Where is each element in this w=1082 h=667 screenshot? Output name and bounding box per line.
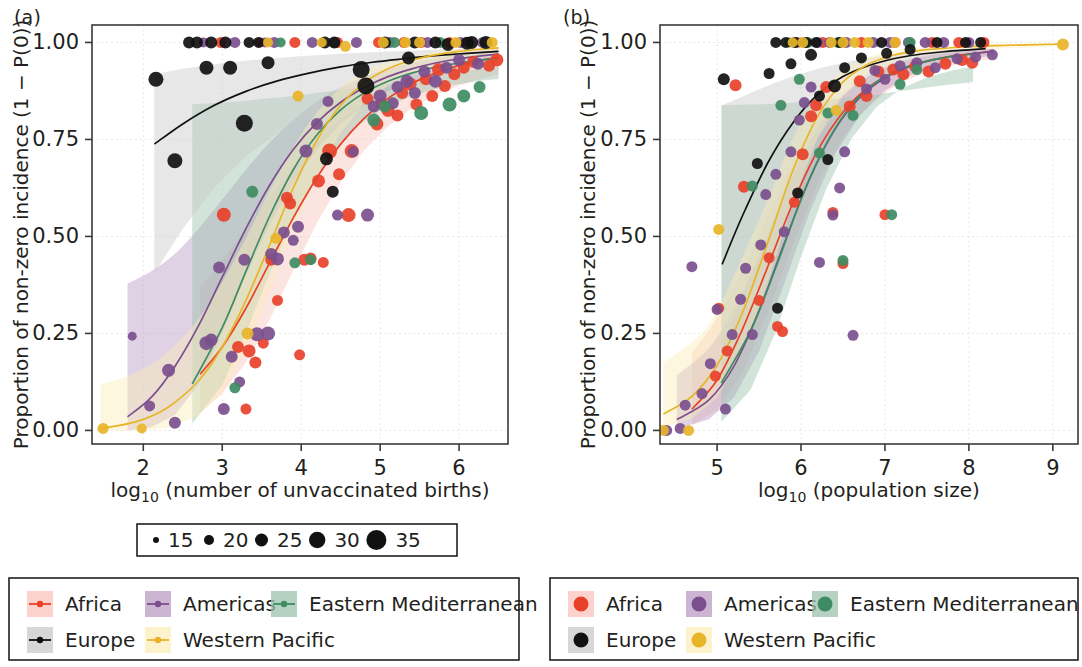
x-tick-label: 7 bbox=[878, 456, 891, 480]
data-point bbox=[931, 37, 942, 48]
data-point bbox=[848, 330, 859, 341]
data-point bbox=[400, 37, 411, 48]
x-tick-label: 4 bbox=[294, 456, 307, 480]
x-axis-title-subscript: 10 bbox=[789, 489, 807, 505]
panel-b-tag: (b) bbox=[563, 6, 591, 28]
data-point bbox=[307, 37, 318, 48]
data-point bbox=[262, 56, 275, 69]
legend-label: Western Pacific bbox=[183, 628, 335, 652]
data-point bbox=[167, 153, 182, 168]
y-tick-label: 0.50 bbox=[600, 224, 647, 248]
size-legend-label: 30 bbox=[334, 528, 359, 552]
data-point bbox=[740, 263, 751, 274]
x-tick-label: 5 bbox=[710, 456, 723, 480]
data-point bbox=[827, 210, 838, 221]
data-point bbox=[288, 235, 299, 246]
data-point bbox=[223, 61, 237, 75]
data-point bbox=[351, 37, 362, 48]
data-point bbox=[754, 295, 765, 306]
legend-label: Eastern Mediterranean bbox=[850, 592, 1079, 616]
data-point bbox=[378, 37, 389, 48]
data-point bbox=[826, 37, 837, 48]
panel-a-svg: 234560.000.250.500.751.00Proportion of n… bbox=[0, 0, 541, 667]
y-tick-label: 0.50 bbox=[32, 224, 79, 248]
data-point bbox=[443, 98, 457, 112]
data-point bbox=[367, 114, 380, 127]
data-point bbox=[289, 37, 300, 48]
x-tick-label: 2 bbox=[137, 456, 150, 480]
data-point bbox=[970, 52, 981, 63]
data-point bbox=[735, 294, 746, 305]
legend-dot bbox=[155, 637, 161, 643]
x-axis-title-subscript: 10 bbox=[141, 489, 159, 505]
data-point bbox=[240, 404, 251, 415]
data-point bbox=[270, 233, 281, 244]
data-point bbox=[242, 327, 254, 339]
data-point bbox=[848, 110, 859, 121]
data-point bbox=[814, 257, 825, 268]
data-point bbox=[289, 257, 300, 268]
legend-label: Europe bbox=[606, 628, 676, 652]
data-point bbox=[323, 96, 334, 107]
size-legend-dot bbox=[255, 534, 268, 547]
data-point bbox=[960, 37, 971, 48]
data-point bbox=[805, 49, 817, 61]
data-point bbox=[357, 77, 374, 94]
data-point bbox=[199, 61, 213, 75]
data-point bbox=[426, 90, 438, 102]
legend-dot bbox=[692, 597, 707, 612]
legend-dot bbox=[574, 633, 589, 648]
data-point bbox=[342, 208, 356, 222]
data-point bbox=[760, 189, 771, 200]
x-axis-title-rest: (number of unvaccinated births) bbox=[159, 478, 490, 502]
data-point bbox=[722, 345, 733, 356]
x-tick-label: 5 bbox=[373, 456, 386, 480]
data-point bbox=[276, 37, 286, 47]
data-point bbox=[418, 66, 430, 78]
data-point bbox=[777, 326, 788, 337]
plot-data bbox=[98, 36, 504, 434]
data-point bbox=[429, 75, 442, 88]
legend-label: Western Pacific bbox=[724, 628, 876, 652]
data-point bbox=[770, 37, 781, 48]
y-tick-label: 1.00 bbox=[600, 30, 647, 54]
legend-dot bbox=[692, 633, 707, 648]
data-point bbox=[137, 423, 147, 433]
size-legend-dot bbox=[153, 537, 159, 543]
data-point bbox=[253, 37, 264, 48]
legend-label: Europe bbox=[65, 628, 135, 652]
data-point bbox=[772, 303, 783, 314]
y-tick-label: 0.25 bbox=[32, 321, 79, 345]
data-point bbox=[834, 182, 845, 193]
data-point bbox=[920, 37, 931, 48]
legend-label: Africa bbox=[65, 592, 122, 616]
data-point bbox=[987, 49, 998, 60]
legend-dot bbox=[281, 601, 287, 607]
data-point bbox=[440, 62, 452, 74]
data-point bbox=[429, 36, 441, 48]
data-point bbox=[680, 400, 691, 411]
size-legend-dot bbox=[309, 532, 325, 548]
data-point bbox=[713, 224, 724, 235]
x-axis-title: log10 (number of unvaccinated births) bbox=[111, 478, 490, 505]
data-point bbox=[243, 344, 256, 357]
data-point bbox=[764, 252, 775, 263]
data-point bbox=[863, 37, 874, 48]
data-point bbox=[710, 371, 721, 382]
legend-dot bbox=[574, 597, 589, 612]
y-tick-label: 0.00 bbox=[32, 418, 79, 442]
legend-item: Americas bbox=[686, 591, 817, 617]
data-point bbox=[205, 334, 218, 347]
data-point bbox=[348, 146, 359, 157]
size-legend-label: 35 bbox=[395, 528, 420, 552]
data-point bbox=[696, 388, 707, 399]
x-tick-label: 8 bbox=[962, 456, 975, 480]
data-point bbox=[905, 44, 916, 55]
data-point bbox=[361, 209, 374, 222]
x-axis-title-main: log bbox=[758, 478, 789, 502]
panel-b-svg: 567890.000.250.500.751.00Proportion of n… bbox=[541, 0, 1082, 667]
data-point bbox=[718, 73, 730, 85]
data-point bbox=[272, 295, 283, 306]
data-point bbox=[391, 109, 403, 121]
data-point bbox=[236, 115, 253, 132]
